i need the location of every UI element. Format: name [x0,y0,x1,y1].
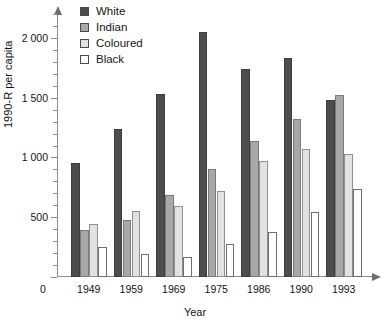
bar-black-1969[interactable] [183,257,192,277]
bar-group-1975 [199,14,235,277]
y-axis-tick-label: 2 000 [2,32,48,44]
x-axis-title: Year [0,306,390,318]
bar-indian-1959[interactable] [123,220,132,277]
bar-white-1959[interactable] [114,129,123,277]
y-axis-minor-tick [53,74,57,75]
y-axis-minor-tick [53,205,57,206]
bar-black-1986[interactable] [268,232,277,277]
y-axis-minor-tick [53,146,57,147]
x-axis-arrow-icon [372,273,381,281]
y-axis-major-tick [51,157,57,158]
bar-chart: WhiteIndianColouredBlack 1990-R per capi… [0,0,390,328]
x-axis-tick-label: 1990 [290,283,313,295]
y-axis-tick-labels: 5001 0001 5002 000 [0,0,48,328]
bar-coloured-1993[interactable] [344,154,353,277]
y-axis-major-tick [51,38,57,39]
x-axis-tick-label: 1986 [247,283,270,295]
bar-indian-1949[interactable] [80,230,89,277]
bar-group-1986 [241,14,277,277]
bar-group-1993 [326,14,362,277]
x-axis-tick-label: 1969 [162,283,185,295]
x-axis-tick-label: 1993 [332,283,355,295]
bar-group-1969 [156,14,192,277]
bar-coloured-1975[interactable] [217,191,226,277]
bar-black-1959[interactable] [141,254,150,277]
bar-black-1990[interactable] [311,212,320,277]
plot-area [57,14,373,277]
y-axis-minor-tick [53,134,57,135]
y-axis-minor-tick [53,62,57,63]
bar-indian-1990[interactable] [293,119,302,277]
bar-group-1959 [114,14,150,277]
y-axis-major-tick [51,98,57,99]
y-axis-tick-label: 1 000 [2,151,48,163]
y-axis-major-tick [51,277,57,278]
bar-group-1990 [284,14,320,277]
x-axis-tick-label: 1959 [120,283,143,295]
y-axis-minor-tick [53,241,57,242]
bar-white-1949[interactable] [71,163,80,277]
bar-white-1986[interactable] [241,69,250,277]
y-axis-minor-tick [53,86,57,87]
bar-group-1949 [71,14,107,277]
bar-white-1975[interactable] [199,32,208,277]
bar-indian-1993[interactable] [335,95,344,277]
bar-black-1975[interactable] [226,244,235,277]
x-axis-tick-label: 1975 [205,283,228,295]
bar-coloured-1949[interactable] [89,224,98,277]
bars-layer [58,14,373,277]
bar-indian-1986[interactable] [250,141,259,277]
y-axis-minor-tick [53,110,57,111]
y-axis-tick-label: 500 [2,211,48,223]
y-axis-minor-tick [53,14,57,15]
y-axis-minor-tick [53,265,57,266]
y-axis-minor-tick [53,26,57,27]
bar-coloured-1986[interactable] [259,161,268,277]
bar-white-1993[interactable] [326,100,335,277]
y-axis-minor-tick [53,50,57,51]
y-axis-minor-tick [53,193,57,194]
y-axis-minor-tick [53,229,57,230]
y-axis-minor-tick [53,122,57,123]
bar-coloured-1990[interactable] [302,149,311,277]
bar-white-1990[interactable] [284,58,293,277]
x-axis-tick-label: 1949 [77,283,100,295]
y-axis-major-tick [51,217,57,218]
bar-coloured-1969[interactable] [174,206,183,277]
y-axis-minor-tick [53,169,57,170]
y-axis-minor-tick [53,253,57,254]
bar-white-1969[interactable] [156,94,165,277]
bar-black-1993[interactable] [353,189,362,277]
y-axis-minor-tick [53,181,57,182]
bar-coloured-1959[interactable] [132,211,141,277]
bar-indian-1975[interactable] [208,169,217,277]
y-axis-zero-label: 0 [40,283,46,295]
bar-indian-1969[interactable] [165,195,174,277]
y-axis-tick-label: 1 500 [2,92,48,104]
bar-black-1949[interactable] [98,247,107,277]
